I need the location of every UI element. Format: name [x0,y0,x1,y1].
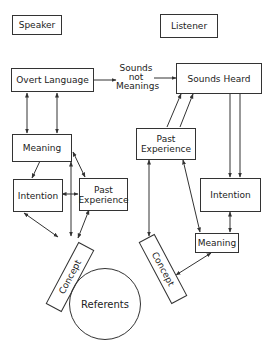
sounds-heard-box: Sounds Heard [176,63,262,94]
speaker-past-experience-box: Past Experience [79,178,128,211]
overt-language-box: Overt Language [11,68,94,92]
speaker-title: Speaker [19,20,56,30]
speaker-title-box: Speaker [12,15,62,35]
listener-past-experience-label: Past Experience [137,134,195,154]
speaker-intention-box: Intention [13,179,63,212]
referents-circle: Referents [69,268,141,340]
listener-past-experience-box: Past Experience [136,128,196,160]
listener-meaning-box: Meaning [195,233,239,253]
listener-title: Listener [171,21,207,31]
speaker-past-experience-label: Past Experience [78,185,128,205]
speaker-intention-label: Intention [18,191,58,201]
listener-intention-label: Intention [210,190,250,200]
sounds-not-meanings-label: Sounds not Meanings [116,64,156,91]
speaker-meaning-label: Meaning [23,143,61,153]
speaker-meaning-box: Meaning [12,134,72,162]
listener-title-box: Listener [160,14,218,38]
sounds-heard-label: Sounds Heard [188,74,251,84]
listener-meaning-label: Meaning [198,238,236,248]
listener-intention-box: Intention [200,178,261,212]
channel-line-3: Meanings [116,82,156,91]
referents-label: Referents [81,299,129,310]
overt-language-label: Overt Language [16,75,88,85]
